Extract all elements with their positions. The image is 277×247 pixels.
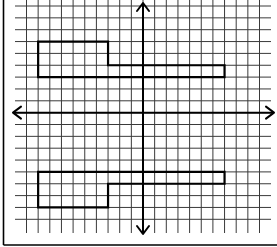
coordinate-grid-diagram [0,0,277,247]
axes [13,3,274,234]
